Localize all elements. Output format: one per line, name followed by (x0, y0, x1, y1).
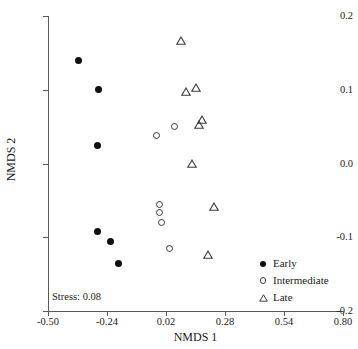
data-point-late (187, 159, 197, 168)
y-tick-label: -0.1 (313, 232, 353, 242)
x-tick-label: 0.80 (320, 316, 358, 327)
y-tick-mark (43, 16, 48, 17)
open-triangle-icon (256, 294, 270, 302)
y-tick-label: -0.2 (313, 306, 353, 316)
y-tick-mark (43, 237, 48, 238)
data-point-intermediate (166, 245, 173, 252)
legend: EarlyIntermediateLate (256, 255, 329, 306)
filled-circle-glyph (260, 261, 266, 267)
legend-item-late[interactable]: Late (256, 289, 329, 306)
x-tick-label: 0.02 (143, 316, 189, 327)
y-tick-label: 0.1 (313, 85, 353, 95)
data-point-late (191, 83, 201, 92)
filled-circle-icon (256, 261, 270, 267)
data-point-intermediate (153, 132, 160, 139)
stress-annotation: Stress: 0.08 (52, 291, 101, 302)
data-point-early (94, 142, 101, 149)
y-tick-label: 0.0 (313, 159, 353, 169)
x-tick-label: 0.54 (261, 316, 307, 327)
legend-item-early[interactable]: Early (256, 255, 329, 272)
y-axis-title: NMDS 2 (4, 120, 19, 200)
data-point-intermediate (158, 219, 165, 226)
x-tick-label: -0.24 (84, 316, 130, 327)
legend-item-intermediate[interactable]: Intermediate (256, 272, 329, 289)
data-point-late (209, 202, 219, 211)
data-point-early (107, 238, 114, 245)
data-point-late (181, 87, 191, 96)
data-point-late (176, 36, 186, 45)
data-point-late (197, 115, 207, 124)
open-triangle-glyph (259, 294, 268, 302)
data-point-late (203, 250, 213, 259)
data-point-early (75, 57, 82, 64)
x-axis-line (48, 311, 343, 312)
x-tick-label: -0.50 (25, 316, 71, 327)
x-axis-title: NMDS 1 (48, 330, 343, 345)
legend-label: Late (273, 289, 293, 306)
open-circle-icon (256, 277, 270, 284)
data-point-intermediate (171, 123, 178, 130)
data-point-early (95, 86, 102, 93)
open-circle-glyph (260, 277, 267, 284)
data-point-early (94, 228, 101, 235)
data-point-early (115, 260, 122, 267)
data-point-intermediate (156, 201, 163, 208)
legend-label: Early (273, 255, 297, 272)
y-tick-label: 0.2 (313, 11, 353, 21)
y-tick-mark (43, 164, 48, 165)
y-axis-line (48, 16, 49, 312)
x-tick-label: 0.28 (202, 316, 248, 327)
data-point-intermediate (156, 209, 163, 216)
y-tick-mark (43, 90, 48, 91)
legend-label: Intermediate (273, 272, 329, 289)
